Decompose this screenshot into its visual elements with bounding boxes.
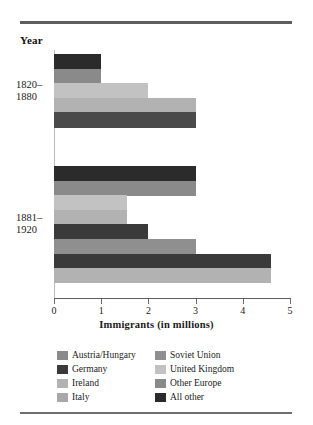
chart-legend: Austria/HungarySoviet UnionGermanyUnited… <box>57 348 267 404</box>
year-group-label-line2: 1920 <box>16 224 52 236</box>
legend-item-label: United Kingdom <box>170 364 234 375</box>
legend-swatch-icon <box>155 379 166 388</box>
bar-all-other <box>54 54 101 69</box>
legend-swatch-icon <box>57 393 68 402</box>
x-axis-tick <box>101 299 102 304</box>
bar-all-other <box>54 166 196 181</box>
immigration-bar-chart-figure: Year 012345 Immigrants (in millions) 182… <box>0 0 313 425</box>
x-axis-title: Immigrants (in millions) <box>0 319 313 330</box>
x-axis-tick-label: 5 <box>280 305 300 316</box>
plot-area <box>54 50 290 299</box>
bar-other-europe <box>54 181 196 196</box>
legend-item: Germany <box>57 362 155 376</box>
top-divider-rule <box>20 21 292 24</box>
legend-item: All other <box>155 390 267 404</box>
legend-item-label: Austria/Hungary <box>72 350 136 361</box>
legend-swatch-icon <box>155 351 166 360</box>
bar-germany <box>54 254 271 269</box>
bar-ireland <box>54 239 196 254</box>
bar-other-europe <box>54 69 101 84</box>
legend-item: Soviet Union <box>155 348 267 362</box>
bar-italy <box>54 224 148 239</box>
x-axis-tick-label: 1 <box>91 305 111 316</box>
year-group-label: 1820–1880 <box>16 79 52 103</box>
legend-item-label: All other <box>170 392 204 403</box>
legend-item-label: Soviet Union <box>170 350 220 361</box>
legend-item: Ireland <box>57 376 155 390</box>
x-axis-tick <box>243 299 244 304</box>
bar-soviet-union <box>54 210 127 225</box>
legend-item: Italy <box>57 390 155 404</box>
bottom-divider-rule <box>20 412 292 414</box>
legend-swatch-icon <box>57 379 68 388</box>
legend-item: Other Europe <box>155 376 267 390</box>
legend-swatch-icon <box>57 351 68 360</box>
legend-item: United Kingdom <box>155 362 267 376</box>
x-axis-line <box>54 298 291 299</box>
bar-austria-hungary <box>54 268 271 283</box>
x-axis-tick-label: 3 <box>186 305 206 316</box>
legend-swatch-icon <box>155 365 166 374</box>
legend-item-label: Italy <box>72 392 89 403</box>
legend-swatch-icon <box>155 393 166 402</box>
bar-united-kingdom <box>54 83 148 98</box>
year-axis-header: Year <box>20 34 43 46</box>
year-group-label-line2: 1880 <box>16 91 52 103</box>
x-axis-tick <box>290 299 291 304</box>
year-group-label-line1: 1820– <box>16 79 52 91</box>
bar-germany <box>54 112 196 127</box>
bar-united-kingdom <box>54 195 127 210</box>
x-axis-tick <box>54 299 55 304</box>
legend-item-label: Other Europe <box>170 378 221 389</box>
bar-ireland <box>54 98 196 113</box>
legend-item-label: Ireland <box>72 378 99 389</box>
legend-swatch-icon <box>57 365 68 374</box>
year-group-label: 1881–1920 <box>16 212 52 236</box>
legend-item: Austria/Hungary <box>57 348 155 362</box>
x-axis-tick-label: 4 <box>233 305 253 316</box>
year-group-label-line1: 1881– <box>16 212 52 224</box>
x-axis-tick <box>196 299 197 304</box>
x-axis-tick-label: 2 <box>138 305 158 316</box>
x-axis-tick <box>148 299 149 304</box>
x-axis-tick-label: 0 <box>44 305 64 316</box>
legend-item-label: Germany <box>72 364 107 375</box>
